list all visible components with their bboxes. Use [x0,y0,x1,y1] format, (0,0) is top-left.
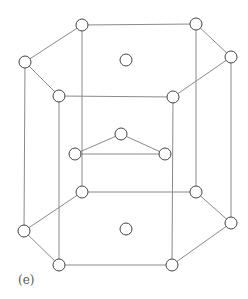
figure-label: (e) [18,273,34,287]
bottom-center-atom [120,223,132,235]
hcp-crystal-diagram [0,0,248,299]
bottom-corner-atom [225,217,237,229]
bottom-hexagon-edge [172,223,231,265]
bottom-corner-atom [190,186,202,198]
vertical-edge [172,97,173,265]
bottom-hexagon-edge [24,231,59,265]
bottom-hexagon-edge [196,192,231,223]
top-corner-atom [190,18,202,30]
top-corner-atom [167,91,179,103]
top-center-atom [120,54,132,66]
top-corner-atom [19,56,31,68]
top-corner-atom [76,19,88,31]
bottom-hexagon-edge [24,192,82,231]
bottom-corner-atom [166,259,178,271]
top-corner-atom [53,90,65,102]
top-hexagon-edge [196,24,231,57]
vertical-edge [24,62,25,231]
top-corner-atom [225,51,237,63]
bottom-corner-atom [18,225,30,237]
top-hexagon-edge [25,62,59,96]
bottom-corner-atom [53,259,65,271]
middle-layer-atom [69,148,81,160]
middle-triangle-edge [121,134,165,154]
top-hexagon-edge [173,57,231,97]
bottom-corner-atom [76,186,88,198]
middle-layer-atom [159,148,171,160]
middle-layer-atom [115,128,127,140]
top-hexagon-edge [25,25,82,62]
top-hexagon-edge [59,96,173,97]
top-hexagon-edge [82,24,196,25]
